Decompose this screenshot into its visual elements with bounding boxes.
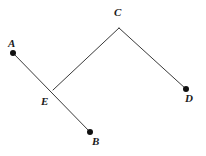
- geometry-figure: A B C D E: [0, 0, 206, 156]
- point-label-a: A: [8, 38, 15, 49]
- point-label-c: C: [114, 7, 121, 18]
- point-label-d: D: [185, 93, 193, 104]
- segment-group: [13, 28, 186, 132]
- point-label-b: B: [92, 136, 99, 147]
- vertex-dot-group: [10, 50, 189, 135]
- figure-canvas: [0, 0, 206, 156]
- point-dot-a: [10, 50, 16, 56]
- segment-ec: [53, 28, 119, 90]
- point-label-e: E: [41, 96, 48, 107]
- segment-ab: [13, 53, 90, 132]
- segment-cd: [119, 28, 186, 89]
